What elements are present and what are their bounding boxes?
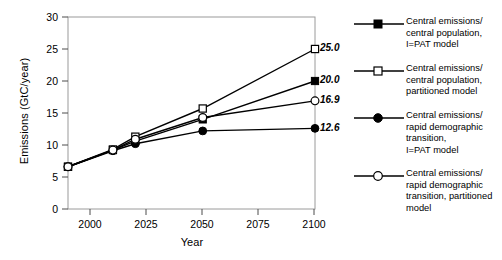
legend-item-0: Central emissions/ central population, I… <box>352 16 502 51</box>
figure: 30 25 20 15 10 5 0 2000 2025 2050 2075 2… <box>0 0 502 260</box>
data-point-2-3 <box>199 127 207 135</box>
chart-panel: 30 25 20 15 10 5 0 2000 2025 2050 2075 2… <box>0 0 350 260</box>
series-line-1 <box>68 49 315 167</box>
x-tick-label-2100: 2100 <box>294 218 334 230</box>
legend-label-3: Central emissions/ rapid demographic tra… <box>406 168 492 214</box>
data-point-1-3 <box>199 105 206 112</box>
legend-item-1: Central emissions/ central population, p… <box>352 63 502 98</box>
data-point-3-2 <box>131 135 139 143</box>
x-tick-label-2075: 2075 <box>238 218 278 230</box>
y-tick-label-20: 20 <box>36 75 58 87</box>
legend-key-filled-circle-icon <box>352 111 406 125</box>
legend-item-3: Central emissions/ rapid demographic tra… <box>352 168 502 214</box>
data-point-0-4 <box>311 77 318 84</box>
legend-label-2: Central emissions/ rapid demographic tra… <box>406 110 483 156</box>
x-axis-ticks <box>90 209 314 215</box>
x-tick-label-2050: 2050 <box>182 218 222 230</box>
legend-key-filled-square-icon <box>352 17 406 31</box>
data-point-1-4 <box>311 45 318 52</box>
legend-item-2: Central emissions/ rapid demographic tra… <box>352 110 502 156</box>
series-line-2 <box>68 128 315 166</box>
y-tick-label-10: 10 <box>36 139 58 151</box>
data-point-3-3 <box>199 114 207 122</box>
legend-key-open-square-icon <box>352 64 406 78</box>
data-point-3-1 <box>109 146 117 154</box>
y-tick-label-5: 5 <box>36 171 58 183</box>
data-point-2-4 <box>311 124 319 132</box>
y-axis-ticks <box>62 17 68 209</box>
legend-label-0: Central emissions/ central population, I… <box>406 16 482 51</box>
legend-key-open-circle-icon <box>352 169 406 183</box>
x-tick-label-2000: 2000 <box>70 218 110 230</box>
data-point-3-4 <box>311 97 319 105</box>
endpoint-label-16-9: 16.9 <box>320 94 339 105</box>
legend: Central emissions/ central population, I… <box>352 8 502 258</box>
endpoint-label-12-6: 12.6 <box>320 122 339 133</box>
data-series-layer <box>64 45 319 170</box>
y-tick-label-25: 25 <box>36 43 58 55</box>
series-line-3 <box>68 101 315 167</box>
endpoint-label-20: 20.0 <box>320 74 339 85</box>
y-tick-label-0: 0 <box>36 203 58 215</box>
legend-label-1: Central emissions/ central population, p… <box>406 63 482 98</box>
y-tick-label-15: 15 <box>36 107 58 119</box>
endpoint-label-25: 25.0 <box>320 42 339 53</box>
y-axis-title: Emissions (GtC/year) <box>18 41 30 181</box>
data-point-3-0 <box>64 163 72 171</box>
x-axis-title: Year <box>68 236 316 248</box>
x-tick-label-2025: 2025 <box>126 218 166 230</box>
y-tick-label-30: 30 <box>36 11 58 23</box>
